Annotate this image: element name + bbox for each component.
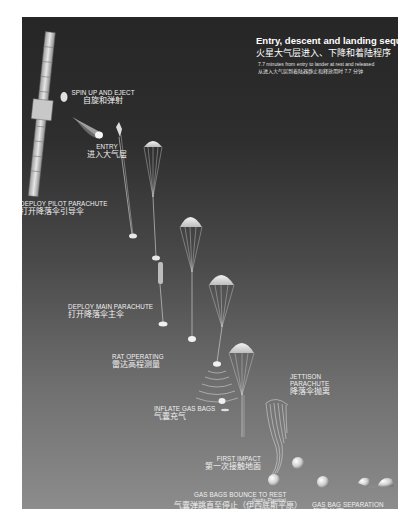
pilot-deploy-icon bbox=[116, 122, 137, 239]
entry-heatshield-icon bbox=[72, 117, 103, 139]
radar-waves-icon bbox=[196, 371, 238, 402]
cruise-stage-icon bbox=[23, 31, 60, 197]
diagram-title-zh: 火星大气层进入、下降和着陆程序 bbox=[256, 48, 391, 58]
jettisoned-parachute-icon bbox=[266, 399, 288, 475]
label-bounce-zh: 气囊弹跳直至停止（伊西底斯平原） bbox=[174, 501, 302, 509]
label-radar: RAT OPERATING 雷达高程测量 bbox=[112, 353, 164, 369]
edl-diagram: Entry, descent and landing sequence 火星大气… bbox=[22, 17, 398, 509]
pilot-parachute-icon bbox=[144, 141, 162, 261]
label-separation: GAS BAG SEPARATION 气囊分离 bbox=[312, 501, 384, 509]
label-first-impact: FIRST IMPACT 第一次接触地面 bbox=[205, 455, 261, 471]
lander-petals-icon bbox=[358, 478, 394, 487]
label-entry: ENTRY 进入大气层 bbox=[77, 143, 137, 159]
diagram-subtitle: 7.7 minutes from entry to lander at rest… bbox=[258, 62, 374, 68]
airbag-bounce2-icon bbox=[317, 476, 329, 488]
radar-parachute-icon bbox=[196, 275, 238, 402]
label-deploy-pilot: DEPLOY PILOT PARACHUTE 打开降落伞引导伞 bbox=[22, 200, 108, 216]
main-parachute-icon bbox=[180, 217, 202, 342]
label-inflate: INFLATE GAS BAGS 气囊充气 bbox=[154, 405, 215, 421]
diagram-title: Entry, descent and landing sequence bbox=[256, 36, 398, 47]
diagram-subtitle-zh: 从进入大气层到着陆器静止和释放用时 7.7 分钟 bbox=[258, 69, 363, 75]
main-chute-deploying-icon bbox=[158, 262, 168, 327]
airbag-impact-icon bbox=[268, 474, 280, 486]
label-jettison: JETTISON PARACHUTE 降落伞抛离 bbox=[290, 373, 330, 397]
airbag-bounce-icon bbox=[292, 457, 304, 469]
airbag-small-icon bbox=[219, 398, 226, 404]
label-deploy-main: DEPLOY MAIN PARACHUTE 打开降落伞主伞 bbox=[68, 303, 153, 319]
label-spin-up: SPIN UP AND EJECT 自旋和弹射 bbox=[58, 89, 148, 105]
inflate-parachute-icon bbox=[229, 343, 254, 437]
